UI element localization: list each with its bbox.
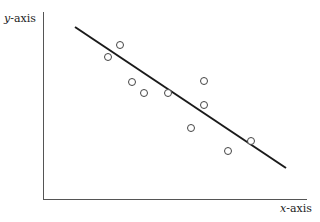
data-point bbox=[141, 90, 148, 97]
data-point bbox=[248, 138, 255, 145]
regression-line bbox=[75, 27, 286, 168]
x-axis-label: x-axis bbox=[280, 202, 312, 215]
data-point bbox=[129, 79, 136, 86]
data-point bbox=[165, 90, 172, 97]
data-point bbox=[117, 42, 124, 49]
data-point bbox=[188, 125, 195, 132]
data-point bbox=[201, 78, 208, 85]
data-point bbox=[225, 148, 232, 155]
data-point bbox=[201, 102, 208, 109]
scatter-plot bbox=[0, 0, 320, 222]
data-point bbox=[105, 54, 112, 61]
y-axis-label: y-axis bbox=[4, 12, 36, 25]
